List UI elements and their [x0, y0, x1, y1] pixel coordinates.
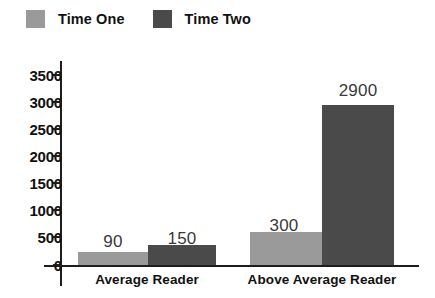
bar-average-reader-time-one[interactable] [78, 252, 148, 265]
legend-label-time-one: Time One [58, 11, 125, 27]
bar-average-reader-time-two[interactable] [148, 245, 216, 265]
bar-value-2900: 2900 [320, 82, 396, 99]
bar-above-average-reader-time-one[interactable] [250, 232, 322, 265]
bars-layer: 90 150 300 2900 [0, 40, 435, 298]
bar-value-300: 300 [248, 217, 320, 234]
bar-value-150: 150 [148, 230, 216, 247]
category-label-average-reader: Average Reader [78, 272, 216, 287]
bar-above-average-reader-time-two[interactable] [322, 105, 394, 265]
legend-entry-time-one: Time One [26, 10, 125, 28]
legend-swatch-time-one [26, 10, 45, 28]
category-label-above-average-reader: Above Average Reader [240, 272, 404, 287]
legend-label-time-two: Time Two [185, 11, 251, 27]
bar-value-90: 90 [78, 233, 148, 250]
bar-chart: Time One Time Two 3500 3000 2500 2000 15… [0, 0, 435, 298]
chart-legend: Time One Time Two [26, 8, 251, 30]
plot-area: 3500 3000 2500 2000 1500 1000 500 0 [0, 40, 435, 298]
legend-swatch-time-two [153, 10, 172, 28]
legend-entry-time-two: Time Two [153, 10, 251, 28]
